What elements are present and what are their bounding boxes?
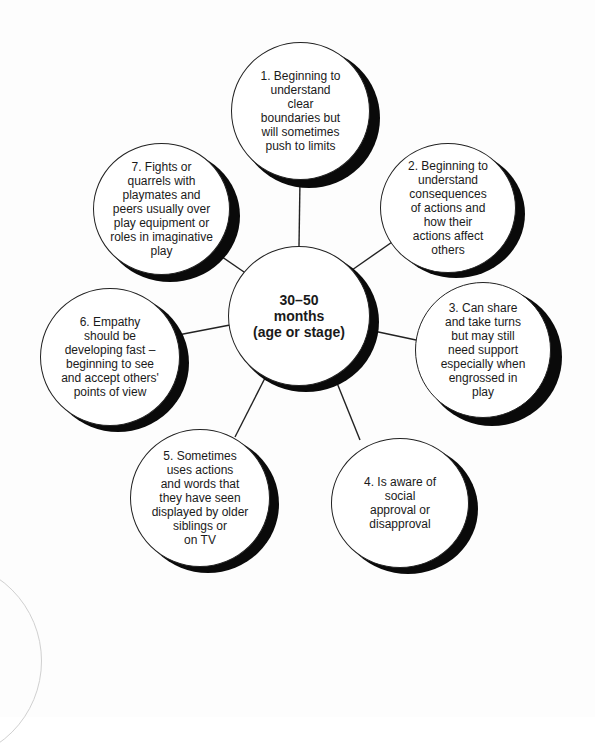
connector-1: [299, 180, 300, 246]
node-4-label: 4. Is aware of social approval or disapp…: [340, 475, 460, 531]
node-7: 7. Fights or quarrels with playmates and…: [93, 143, 230, 275]
node-3: 3. Can share and take turns but may stil…: [415, 282, 551, 418]
center-label: 30–50 months (age or stage): [239, 292, 359, 340]
node-1-label: 1. Beginning to understand clear boundar…: [241, 69, 361, 153]
node-2-label: 2. Beginning to understand consequences …: [388, 159, 508, 257]
node-7-label: 7. Fights or quarrels with playmates and…: [102, 160, 222, 258]
node-3-label: 3. Can share and take turns but may stil…: [423, 301, 543, 399]
node-5-label: 5. Sometimes uses actions and words that…: [140, 449, 260, 547]
center-node: 30–50 months (age or stage): [228, 246, 370, 386]
node-2: 2. Beginning to understand consequences …: [380, 143, 516, 273]
connector-6: [178, 325, 230, 335]
node-6-label: 6. Empathy should be developing fast – b…: [50, 315, 170, 399]
node-4: 4. Is aware of social approval or disapp…: [331, 438, 469, 568]
connector-4: [335, 378, 360, 440]
node-1: 1. Beginning to understand clear boundar…: [231, 42, 370, 180]
connector-5: [235, 378, 265, 437]
node-6: 6. Empathy should be developing fast – b…: [40, 288, 180, 426]
node-5: 5. Sometimes uses actions and words that…: [130, 429, 270, 567]
